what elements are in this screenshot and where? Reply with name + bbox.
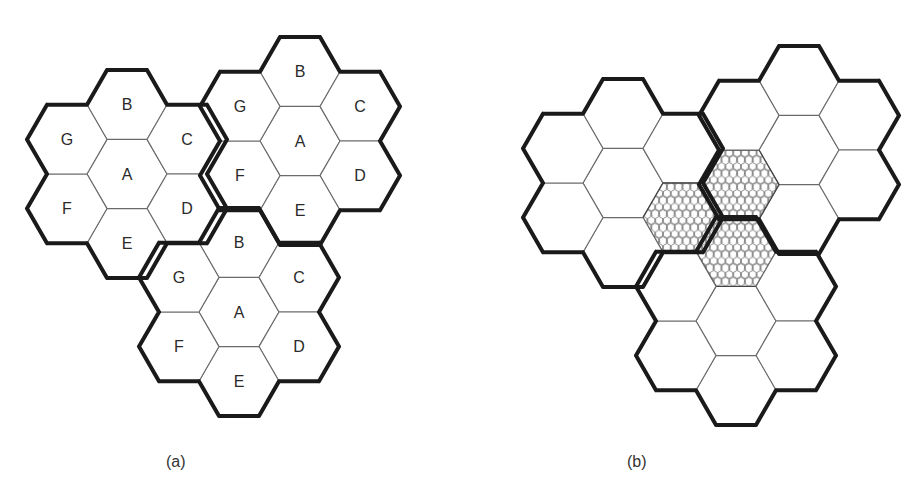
cell-label-d: D <box>354 167 366 184</box>
cell-label-b: B <box>234 234 245 251</box>
cell-label-b: B <box>122 96 133 113</box>
cell-label-d: D <box>293 338 305 355</box>
cell-label-a: A <box>234 304 245 321</box>
cell-label-g: G <box>173 269 185 286</box>
cell-label-d: D <box>181 200 193 217</box>
cell-label-b: B <box>295 63 306 80</box>
caption-panel-b: (b) <box>627 453 647 471</box>
cell-label-g: G <box>61 131 73 148</box>
cell-label-e: E <box>295 202 306 219</box>
cell-label-f: F <box>62 200 72 217</box>
cell-label-a: A <box>295 133 306 150</box>
cellular-reuse-diagram: ABCDEFGABCDEFGABCDEFG <box>0 0 923 498</box>
panel-b-clusters-with-cochannel-cells <box>523 46 899 425</box>
cell-label-f: F <box>174 338 184 355</box>
cell-label-e: E <box>122 235 133 252</box>
panel-a-three-clusters-labeled: ABCDEFGABCDEFGABCDEFG <box>27 37 400 416</box>
cell-label-c: C <box>354 98 366 115</box>
cell-label-e: E <box>234 373 245 390</box>
cell-label-a: A <box>122 166 133 183</box>
cell-label-c: C <box>293 269 305 286</box>
caption-panel-a: (a) <box>166 453 186 471</box>
cell-label-c: C <box>181 131 193 148</box>
cell-label-g: G <box>234 98 246 115</box>
cell-label-f: F <box>235 167 245 184</box>
